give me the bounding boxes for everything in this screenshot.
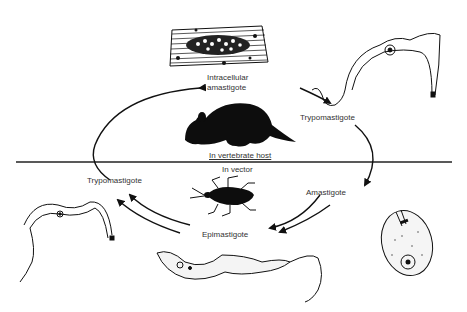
arrow-to-epimastigote-icon <box>280 205 330 232</box>
label-amastigote: Amastigote <box>306 188 346 198</box>
label-line-2: amastigote <box>207 83 248 93</box>
arrow-to-trypomastigote-vector-icon <box>118 200 180 233</box>
label-intracellular-amastigote: Intracellular amastigote <box>207 73 248 93</box>
amastigote-vector-icon <box>374 205 439 282</box>
arrow-to-trypomastigote-icon <box>300 88 330 103</box>
label-trypomastigote-host: Trypomastigote <box>300 113 355 123</box>
muscle-tissue-icon <box>170 26 268 66</box>
arrow-to-epimastigote-2-icon <box>270 195 320 228</box>
life-cycle-diagram: Intracellular amastigote Trypomastigote … <box>0 0 467 312</box>
label-in-vector: In vector <box>222 165 253 175</box>
arrow-to-intracellular-icon <box>93 88 200 180</box>
label-trypomastigote-vector: Trypomastigote <box>87 176 142 186</box>
label-line-1: Intracellular <box>207 73 248 83</box>
triatomine-bug-icon <box>190 176 256 216</box>
arrow-to-trypomastigote-vector-2-icon <box>130 195 190 225</box>
arrow-to-amastigote-icon <box>355 125 373 185</box>
epimastigote-icon <box>157 252 322 302</box>
label-in-vertebrate-host: In vertebrate host <box>209 151 271 161</box>
label-epimastigote: Epimastigote <box>202 230 248 240</box>
trypomastigote-vector-icon <box>20 202 114 282</box>
trypomastigote-host-icon <box>312 33 440 105</box>
rodent-icon <box>185 103 296 146</box>
